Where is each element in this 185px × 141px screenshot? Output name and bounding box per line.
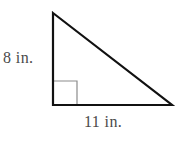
right-angle-marker-icon xyxy=(53,81,77,105)
triangle-outline xyxy=(53,13,172,105)
figure-canvas: 8 in. 11 in. xyxy=(0,0,185,141)
horizontal-leg-length-label: 11 in. xyxy=(84,114,122,130)
vertical-leg-length-label: 8 in. xyxy=(3,50,33,66)
